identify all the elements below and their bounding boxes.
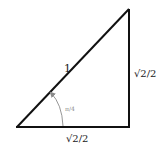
vertical-leg-label: √2/2 <box>134 68 156 79</box>
horizontal-leg-label: √2/2 <box>66 133 88 144</box>
triangle-diagram: 1 √2/2 √2/2 π/4 <box>0 0 168 152</box>
hypotenuse-label: 1 <box>64 62 71 75</box>
angle-label: π/4 <box>65 105 75 112</box>
angle-arc <box>51 93 63 126</box>
